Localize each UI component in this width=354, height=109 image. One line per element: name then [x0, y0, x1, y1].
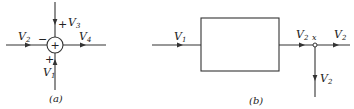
sign-plus-bottom: + — [45, 53, 54, 66]
label-v2: V2 — [18, 30, 31, 44]
sign-plus-top: + — [58, 18, 67, 31]
label-v3: V3 — [68, 16, 81, 30]
junction-plus: + — [50, 39, 59, 52]
caption-a: (a) — [49, 93, 63, 104]
label-v1: V1 — [174, 30, 186, 44]
diagram-canvas: + V2 − + V3 + V1 V4 (a) V1 V2 x V2 V2 (b… — [0, 0, 354, 109]
caption-b: (b) — [249, 95, 263, 106]
sign-minus: − — [38, 33, 47, 46]
block-takeoff-diagram: V1 V2 x V2 V2 (b) — [152, 18, 350, 106]
label-v2-down: V2 — [320, 72, 333, 86]
summing-junction-diagram: + V2 − + V3 + V1 V4 (a) — [6, 2, 106, 104]
label-v2-right: V2 — [334, 28, 347, 42]
takeoff-point — [313, 43, 317, 47]
system-block — [201, 18, 279, 71]
label-v4: V4 — [79, 30, 91, 44]
label-v1: V1 — [43, 66, 55, 80]
label-v2-out: V2 — [296, 28, 309, 42]
label-x: x — [312, 33, 317, 42]
